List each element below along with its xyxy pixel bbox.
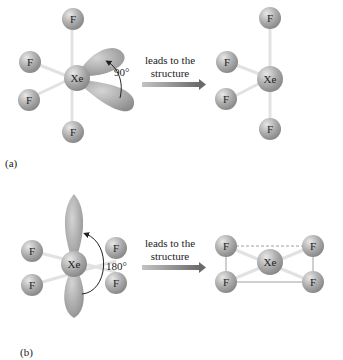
svg-text:F: F [223, 240, 229, 252]
panel-label-b: (b) [20, 346, 33, 359]
atom-xe: Xe [64, 65, 90, 91]
svg-text:F: F [27, 56, 33, 68]
arrow-right-icon [142, 79, 206, 90]
atom-f-bottom: F [62, 121, 84, 143]
svg-text:Xe: Xe [264, 73, 277, 85]
svg-text:F: F [310, 240, 316, 252]
result-atom-f-top: F [259, 7, 281, 29]
svg-text:F: F [223, 276, 229, 288]
svg-text:F: F [29, 245, 35, 257]
svg-text:F: F [113, 242, 119, 254]
result-atom-f-ll: F [215, 271, 237, 293]
svg-text:F: F [26, 94, 32, 106]
svg-text:F: F [29, 279, 35, 291]
angle-label-90: 90° [114, 66, 129, 78]
svg-text:Xe: Xe [71, 72, 84, 84]
svg-text:F: F [70, 13, 76, 25]
atom-f-ul: F [21, 240, 43, 262]
result-atom-f-bottom: F [259, 118, 281, 140]
svg-text:Xe: Xe [68, 258, 81, 270]
panel-label-a: (a) [5, 157, 18, 170]
result-atom-xe: Xe [257, 249, 283, 275]
result-atom-f-ur: F [302, 235, 324, 257]
panel-a: F F F F Xe 90° leads to the structure F … [5, 7, 283, 170]
svg-text:F: F [310, 276, 316, 288]
svg-text:F: F [70, 126, 76, 138]
result-atom-f-ul: F [215, 235, 237, 257]
svg-text:F: F [267, 123, 273, 135]
arrow-text-a-2: structure [151, 67, 190, 79]
angle-label-180: 180° [106, 260, 127, 272]
result-atom-f-left-lower: F [215, 88, 237, 110]
xef4-geometry-diagram: F F F F Xe 90° leads to the structure F … [0, 0, 343, 360]
arrow-text-a-1: leads to the [145, 54, 195, 66]
svg-text:F: F [267, 12, 273, 24]
atom-f-lr: F [105, 272, 127, 294]
atom-f-ur: F [105, 237, 127, 259]
svg-text:F: F [223, 93, 229, 105]
atom-f-ll: F [21, 274, 43, 296]
panel-b: F F F F Xe 180° leads to the structure F… [20, 194, 324, 359]
arrow-text-b-2: structure [151, 250, 190, 262]
atom-f-top: F [62, 8, 84, 30]
result-atom-xe: Xe [257, 66, 283, 92]
result-atom-f-lr: F [302, 271, 324, 293]
svg-text:F: F [113, 277, 119, 289]
svg-text:Xe: Xe [264, 256, 277, 268]
svg-text:F: F [224, 56, 230, 68]
atom-f-left-upper: F [19, 51, 41, 73]
atom-xe: Xe [61, 251, 87, 277]
arrow-right-icon [142, 262, 206, 273]
result-atom-f-left-upper: F [216, 51, 238, 73]
arrow-text-b-1: leads to the [145, 237, 195, 249]
atom-f-left-lower: F [18, 89, 40, 111]
